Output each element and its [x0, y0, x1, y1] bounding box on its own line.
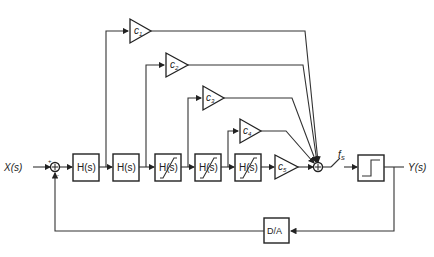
- sampler-label: fS: [338, 149, 345, 161]
- coefficient-c3: c3: [203, 86, 224, 110]
- svg-text:+: +: [48, 158, 52, 164]
- integrator-4-limited: H(s): [195, 154, 221, 181]
- quantizer: [358, 155, 384, 181]
- coefficient-c5: c5: [275, 155, 298, 179]
- svg-text:D/A: D/A: [267, 226, 282, 236]
- output-summer: [314, 163, 323, 172]
- integrator-1: H(s): [73, 154, 99, 181]
- integrator-2: H(s): [113, 154, 139, 181]
- input-label: X(s): [3, 162, 22, 173]
- input-summer: + -: [48, 158, 60, 178]
- svg-text:-: -: [57, 172, 59, 178]
- svg-text:H(s): H(s): [117, 162, 136, 173]
- dac-block: D/A: [264, 218, 289, 243]
- block-diagram: X(s) + - H(s) H(s) H(s) H(s) H(s) c5: [0, 0, 434, 257]
- svg-text:H(s): H(s): [77, 162, 96, 173]
- integrator-3-limited: H(s): [155, 154, 181, 181]
- integrator-5-limited: H(s): [235, 154, 261, 181]
- coefficient-c2: c2: [166, 53, 188, 77]
- coefficient-c4: c4: [240, 119, 261, 143]
- output-label: Y(s): [408, 162, 426, 173]
- coefficient-c1: c1: [130, 19, 151, 43]
